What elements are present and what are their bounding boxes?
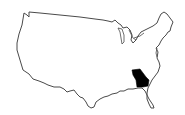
us-outline <box>17 12 173 108</box>
us-outline-svg <box>0 0 185 115</box>
us-map: Georgia <box>0 0 185 115</box>
